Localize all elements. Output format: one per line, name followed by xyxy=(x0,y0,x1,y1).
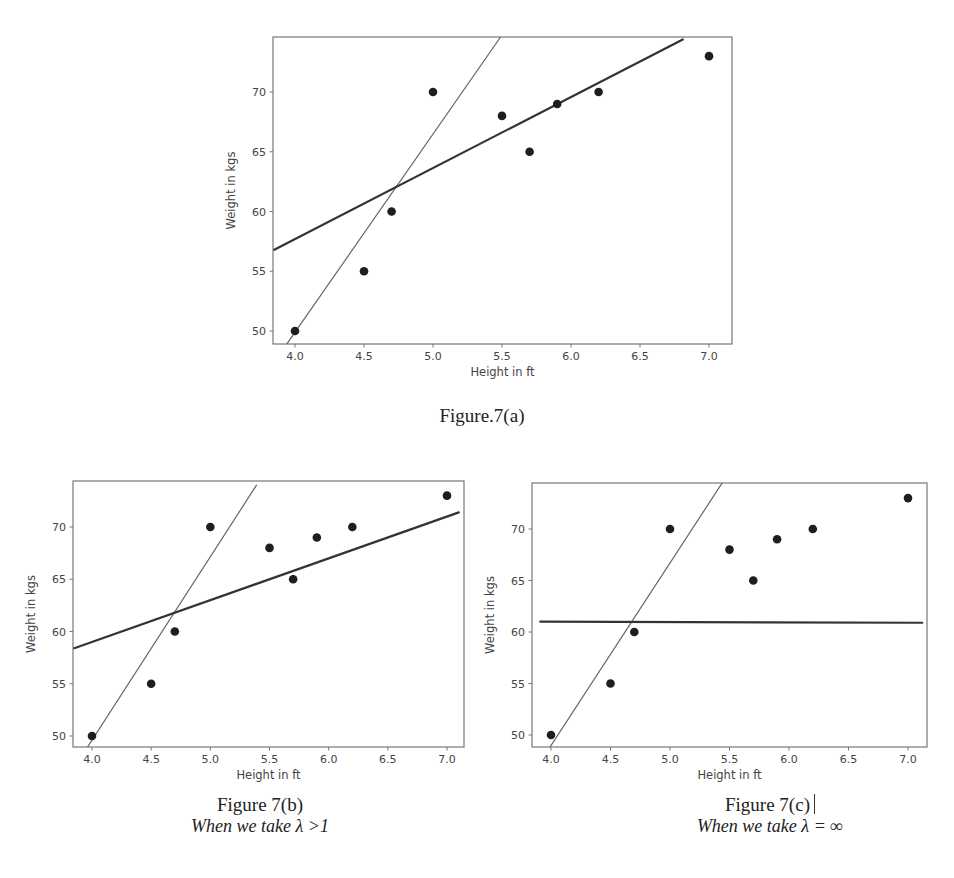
data-point xyxy=(666,525,675,534)
axes-frame xyxy=(532,483,927,747)
figure-7b-caption: Figure 7(b) When we take λ >1 xyxy=(130,794,390,837)
data-point xyxy=(360,267,369,276)
y-tick-label: 60 xyxy=(511,626,525,639)
data-point xyxy=(443,491,452,500)
data-point xyxy=(291,327,300,336)
data-point xyxy=(705,52,714,61)
fit-line xyxy=(74,512,459,648)
y-tick-label: 50 xyxy=(252,325,266,338)
data-point xyxy=(265,544,274,553)
data-point xyxy=(630,628,639,637)
figure-7b-subtitle: When we take λ >1 xyxy=(130,816,390,837)
x-tick-label: 6.5 xyxy=(840,753,858,766)
y-tick-label: 70 xyxy=(52,521,66,534)
x-tick-label: 5.0 xyxy=(202,753,220,766)
data-point xyxy=(289,575,298,584)
x-tick-label: 7.0 xyxy=(899,753,917,766)
figure-7c-subtitle: When we take λ = ∞ xyxy=(640,816,900,837)
x-tick-label: 4.0 xyxy=(542,753,560,766)
figure-7c-title: Figure 7(c) xyxy=(640,794,900,816)
figure-7c-caption: Figure 7(c) When we take λ = ∞ xyxy=(640,794,900,837)
x-tick-label: 4.5 xyxy=(142,753,160,766)
figure-7c-chart: 4.04.55.05.56.06.57.05055606570Height in… xyxy=(472,475,935,791)
x-axis-label: Height in ft xyxy=(697,768,762,782)
fit-line xyxy=(540,622,922,623)
data-point xyxy=(498,112,507,121)
y-tick-label: 60 xyxy=(252,206,266,219)
fit-line xyxy=(287,37,501,344)
x-tick-label: 6.0 xyxy=(562,350,580,363)
y-tick-label: 70 xyxy=(252,86,266,99)
data-point xyxy=(348,523,357,532)
x-tick-label: 6.0 xyxy=(320,753,338,766)
y-axis-label: Weight in kgs xyxy=(24,575,38,653)
figure-7b-title: Figure 7(b) xyxy=(130,794,390,816)
plot-area xyxy=(540,483,922,748)
x-tick-label: 5.5 xyxy=(261,753,279,766)
fit-line xyxy=(87,485,256,747)
x-tick-label: 5.0 xyxy=(661,753,679,766)
data-point xyxy=(206,523,215,532)
x-tick-label: 6.5 xyxy=(379,753,397,766)
axes-frame xyxy=(273,37,732,344)
data-point xyxy=(773,535,782,544)
y-axis-label: Weight in kgs xyxy=(483,576,497,654)
data-point xyxy=(88,732,97,741)
data-point xyxy=(429,88,438,97)
figure-7a-title: Figure.7(a) xyxy=(377,405,587,427)
x-tick-label: 5.5 xyxy=(721,753,739,766)
y-tick-label: 50 xyxy=(511,729,525,742)
x-tick-label: 4.5 xyxy=(355,350,373,363)
x-tick-label: 7.0 xyxy=(700,350,718,363)
y-tick-label: 65 xyxy=(252,146,266,159)
axes-frame xyxy=(73,481,464,747)
fit-line xyxy=(274,39,682,249)
fit-line xyxy=(550,483,723,748)
x-axis-label: Height in ft xyxy=(236,768,301,782)
y-tick-label: 55 xyxy=(252,265,266,278)
x-tick-label: 7.0 xyxy=(438,753,456,766)
data-point xyxy=(606,679,615,688)
data-point xyxy=(387,207,396,216)
data-point xyxy=(749,576,758,585)
data-point xyxy=(725,545,734,554)
plot-area xyxy=(274,37,713,344)
data-point xyxy=(171,627,180,636)
y-tick-label: 65 xyxy=(52,573,66,586)
y-axis-label: Weight in kgs xyxy=(224,152,238,230)
data-point xyxy=(525,147,534,156)
x-tick-label: 5.0 xyxy=(424,350,442,363)
y-tick-label: 55 xyxy=(52,678,66,691)
data-point xyxy=(553,100,562,109)
y-tick-label: 60 xyxy=(52,626,66,639)
x-tick-label: 6.0 xyxy=(780,753,798,766)
data-point xyxy=(147,679,156,688)
x-tick-label: 4.0 xyxy=(286,350,304,363)
y-tick-label: 70 xyxy=(511,523,525,536)
data-point xyxy=(547,731,556,740)
data-point xyxy=(594,88,603,97)
y-tick-label: 55 xyxy=(511,678,525,691)
data-point xyxy=(904,494,913,503)
figure-7a-caption: Figure.7(a) xyxy=(377,405,587,427)
plot-area xyxy=(74,485,459,747)
y-tick-label: 65 xyxy=(511,575,525,588)
figure-7b-chart: 4.04.55.05.56.06.57.05055606570Height in… xyxy=(13,473,472,791)
data-point xyxy=(809,525,818,534)
x-axis-label: Height in ft xyxy=(470,365,535,379)
figure-7a-chart: 4.04.55.05.56.06.57.05055606570Height in… xyxy=(213,29,740,388)
x-tick-label: 6.5 xyxy=(631,350,649,363)
data-point xyxy=(313,533,322,542)
x-tick-label: 4.0 xyxy=(83,753,101,766)
figure-7c-title-text: Figure 7(c) xyxy=(725,794,810,815)
x-tick-label: 4.5 xyxy=(602,753,620,766)
x-tick-label: 5.5 xyxy=(493,350,511,363)
text-cursor xyxy=(814,794,815,814)
y-tick-label: 50 xyxy=(52,730,66,743)
